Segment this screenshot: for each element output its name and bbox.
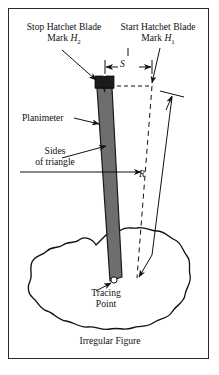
- figure-artwork: [0, 0, 219, 375]
- label-dimension-s: S: [120, 59, 125, 70]
- label-start-line2-pre: Mark: [141, 32, 164, 43]
- label-sides-line1: Sides: [45, 145, 66, 156]
- tracing-point-marker: [111, 277, 117, 283]
- label-start-hatchet-blade: Start Hatchet Blade Mark H1: [111, 22, 205, 45]
- label-start-sub: 1: [171, 38, 174, 45]
- label-sides-line2: of triangle: [35, 156, 75, 167]
- label-tracing-line2: Point: [96, 298, 116, 309]
- figure-caption: Irregular Figure: [58, 336, 162, 347]
- label-tracing-point: Tracing Point: [78, 288, 134, 309]
- label-tracing-line1: Tracing: [91, 287, 121, 298]
- label-start-line1: Start Hatchet Blade: [120, 21, 195, 32]
- label-sides-of-triangle: Sides of triangle: [22, 146, 88, 167]
- label-stop-line1: Stop Hatchet Blade: [27, 21, 102, 32]
- label-dimension-r: R: [139, 169, 145, 180]
- dimension-s: [105, 60, 152, 74]
- label-stop-hatchet-blade: Stop Hatchet Blade Mark H2: [18, 22, 110, 45]
- planimeter-figure: Stop Hatchet Blade Mark H2 Start Hatchet…: [0, 0, 219, 375]
- label-planimeter: Planimeter: [22, 113, 64, 124]
- label-stop-line2-pre: Mark: [47, 32, 70, 43]
- label-stop-sub: 2: [77, 38, 80, 45]
